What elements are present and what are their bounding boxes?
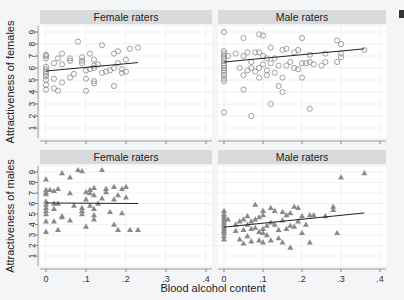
x-tick-label: .4 <box>376 274 384 284</box>
y-tick-label: 2 <box>27 113 37 118</box>
faceted-scatter-chart: Female raters123456789Attractiveness of … <box>0 0 404 300</box>
x-tick-label: .2 <box>298 274 306 284</box>
y-tick-label: 4 <box>27 89 37 94</box>
x-tick-label: 0 <box>43 274 48 284</box>
panel-title: Male raters <box>276 151 329 163</box>
y-tick-label: 6 <box>27 65 37 70</box>
y-tick-label: 2 <box>27 243 37 248</box>
x-axis-label: Blood alcohol content <box>160 282 265 294</box>
y-tick-label: 7 <box>27 190 37 195</box>
y-tick-label: 3 <box>27 232 37 237</box>
y-tick-label: 5 <box>27 211 37 216</box>
y-tick-label: 3 <box>27 101 37 106</box>
y-tick-label: 8 <box>27 41 37 46</box>
x-tick-label: .3 <box>337 274 345 284</box>
y-tick-label: 5 <box>27 77 37 82</box>
y-axis-label: Attractiveness of males <box>4 159 16 273</box>
panel-title: Female raters <box>94 151 159 163</box>
y-tick-label: 6 <box>27 201 37 206</box>
y-tick-label: 4 <box>27 222 37 227</box>
fit-line <box>46 203 138 204</box>
y-tick-label: 9 <box>27 29 37 34</box>
panel-title: Male raters <box>276 11 329 23</box>
y-tick-label: 7 <box>27 53 37 58</box>
y-tick-label: 1 <box>27 125 37 130</box>
panel-2: Male raters <box>218 10 386 144</box>
x-tick-label: .1 <box>82 274 90 284</box>
y-tick-label: 8 <box>27 180 37 185</box>
y-tick-label: 1 <box>27 253 37 258</box>
corner-mark <box>399 10 404 18</box>
x-tick-label: .2 <box>122 274 130 284</box>
panel-4: Male raters0.1.2.3.4 <box>218 150 386 284</box>
panel-title: Female raters <box>94 11 159 23</box>
y-axis-label: Attractiveness of females <box>4 20 16 143</box>
y-tick-label: 9 <box>27 169 37 174</box>
